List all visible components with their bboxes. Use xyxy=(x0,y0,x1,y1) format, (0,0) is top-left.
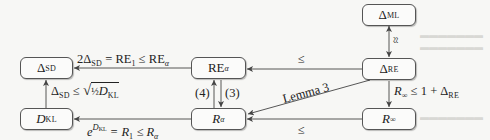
node-symbol: R xyxy=(382,111,390,127)
label-part: ½ xyxy=(91,86,99,97)
label-part: R xyxy=(394,84,402,98)
label-r-inf-to-r-alpha: ≤ xyxy=(298,123,305,138)
node-delta-ml: ΔML xyxy=(362,4,416,26)
node-subscript: α xyxy=(220,115,225,124)
node-symbol: Δ xyxy=(379,61,387,77)
node-r-alpha: Rα xyxy=(191,108,246,130)
node-r-inf: R∞ xyxy=(362,108,416,130)
label-sub: KL xyxy=(99,126,107,132)
label-part: = RE xyxy=(102,52,131,66)
sqrt-content: ½DKL xyxy=(91,82,119,98)
node-subscript: α xyxy=(225,64,230,73)
node-subscript: RE xyxy=(388,65,399,74)
node-symbol: RE xyxy=(208,60,225,76)
label-part: Δ xyxy=(51,84,59,98)
label-part: ≤ RE xyxy=(136,52,165,66)
label-sub: α xyxy=(165,59,170,68)
label-r-alpha-to-d-kl: eDKL = R1 ≤ Rα xyxy=(87,122,159,140)
label-delta-re-to-re-alpha: ≤ xyxy=(298,52,305,67)
node-subscript: ∞ xyxy=(390,115,396,124)
node-subscript: KL xyxy=(46,115,57,124)
sqrt-sign: √ xyxy=(83,82,91,98)
node-subscript: SD xyxy=(45,64,56,73)
label-r-alpha-to-re-alpha: (4) xyxy=(195,86,210,101)
label-sub: RE xyxy=(448,91,459,100)
label-sub: KL xyxy=(108,91,119,100)
label-sub: SD xyxy=(59,91,70,100)
label-part: 2Δ xyxy=(77,52,91,66)
label-delta-ml-delta-re: ≈ xyxy=(390,37,402,43)
label-part: ≤ R xyxy=(133,125,154,139)
node-symbol: R xyxy=(212,111,220,127)
label-part: ≤ 1 + Δ xyxy=(408,84,449,98)
node-d-kl: DKL xyxy=(20,108,73,130)
node-delta-sd: ΔSD xyxy=(20,57,73,79)
node-subscript: ML xyxy=(387,11,400,20)
node-delta-re: ΔRE xyxy=(362,58,416,80)
label-re-alpha-to-delta-sd: 2ΔSD = RE1 ≤ REα xyxy=(77,52,169,68)
label-part: D xyxy=(99,84,108,98)
label-sub: SD xyxy=(91,59,102,68)
label-d-kl-to-delta-sd: ΔSD ≤ √½DKL xyxy=(51,82,119,100)
node-re-alpha: REα xyxy=(191,57,246,79)
label-part: ≤ xyxy=(70,84,83,98)
node-symbol: D xyxy=(36,111,45,127)
label-sub: α xyxy=(154,132,159,140)
node-symbol: Δ xyxy=(37,60,45,76)
node-symbol: Δ xyxy=(379,7,387,23)
label-exponent: DKL xyxy=(93,122,107,132)
label-re-alpha-to-r-alpha: (3) xyxy=(225,86,240,101)
label-delta-re-to-r-inf: R∞ ≤ 1 + ΔRE xyxy=(394,84,459,100)
label-part: = R xyxy=(107,125,129,139)
